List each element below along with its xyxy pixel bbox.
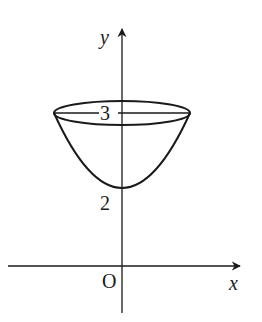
tick-label-2: 2 [100,192,110,214]
tick-label-3: 3 [100,102,110,124]
x-axis-label: x [228,272,238,294]
diagram-canvas: y 3 2 O x [0,0,262,322]
y-axis-label: y [98,26,109,49]
origin-label: O [102,270,116,292]
